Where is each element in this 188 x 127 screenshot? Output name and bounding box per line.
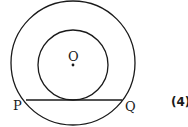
center-label: O: [68, 49, 79, 64]
center-point: [72, 64, 75, 67]
point-p-label: P: [13, 98, 22, 113]
figure-number: (4): [171, 95, 188, 109]
concentric-circles-diagram: O P Q (4): [0, 0, 188, 127]
point-q-label: Q: [125, 99, 136, 114]
